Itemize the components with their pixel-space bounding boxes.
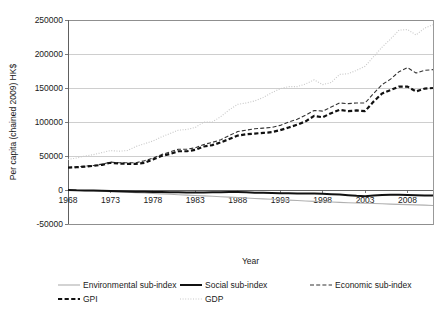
legend-label: GDP	[205, 294, 224, 304]
y-tick-label: 200000	[35, 49, 64, 59]
legend-label: Social sub-index	[205, 280, 268, 290]
y-tick-label: -50000	[37, 219, 64, 229]
data-series	[68, 25, 433, 206]
series-line-gdp	[68, 25, 433, 160]
chart-legend: Environmental sub-indexSocial sub-indexE…	[58, 280, 412, 304]
x-tick-label: 1988	[228, 195, 247, 205]
y-tick-label: 100000	[35, 117, 64, 127]
legend-label: Environmental sub-index	[83, 280, 177, 290]
y-tick-label: 250000	[35, 15, 64, 25]
line-chart: -50000050000100000150000200000250000 196…	[0, 0, 447, 314]
legend-label: GPI	[83, 294, 98, 304]
x-tick-label: 1983	[186, 195, 205, 205]
x-axis-title: Year	[242, 256, 259, 266]
x-axis-title-text: Year	[242, 256, 259, 266]
chart-container: -50000050000100000150000200000250000 196…	[0, 0, 447, 314]
y-axis-title-text: Per capita (chained 2009) HK$	[8, 64, 18, 181]
x-tick-label: 2008	[398, 195, 417, 205]
y-tick-label: 0	[58, 185, 63, 195]
series-line-gpi	[68, 87, 433, 168]
series-line-economic-sub-index	[68, 68, 433, 168]
x-tick-label: 1968	[59, 195, 78, 205]
y-axis-title: Per capita (chained 2009) HK$	[8, 64, 18, 181]
legend-label: Economic sub-index	[335, 280, 412, 290]
x-tick-label: 1998	[313, 195, 332, 205]
x-tick-label: 1978	[143, 195, 162, 205]
y-tick-label: 150000	[35, 83, 64, 93]
series-line-social-sub-index	[68, 190, 433, 196]
y-tick-label: 50000	[39, 151, 63, 161]
x-tick-label: 1973	[101, 195, 120, 205]
